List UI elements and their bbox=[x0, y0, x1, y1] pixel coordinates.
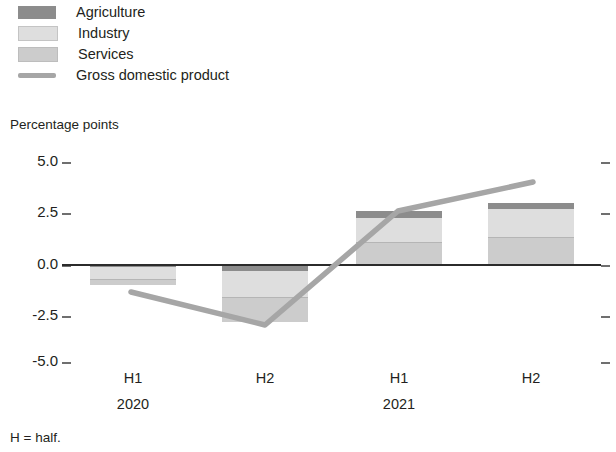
bar-h1-2020 bbox=[90, 264, 176, 285]
y-tick-label-neg-5: -5.0 bbox=[2, 352, 58, 369]
y-tick-mark-neg-2-5 bbox=[62, 316, 71, 318]
gdp-line-path bbox=[131, 182, 533, 325]
bar-h1-2021 bbox=[356, 211, 442, 264]
bar-segment-services bbox=[488, 238, 574, 264]
y-tick-mark-2-5 bbox=[62, 213, 71, 215]
y-tick-label-5: 5.0 bbox=[2, 152, 58, 169]
bar-h2-2021 bbox=[488, 203, 574, 264]
bar-segment-industry bbox=[90, 267, 176, 280]
y-tick-mark-neg-5 bbox=[62, 362, 71, 364]
x-group-label-2021: 2021 bbox=[356, 396, 442, 412]
y-tick-mark-right-neg-5 bbox=[601, 362, 610, 364]
y-tick-mark-right-neg-2-5 bbox=[601, 316, 610, 318]
x-tick-label-h1-2020: H1 bbox=[90, 370, 176, 386]
x-group-label-2020: 2020 bbox=[90, 396, 176, 412]
bar-segment-services bbox=[222, 298, 308, 322]
bar-segment-services bbox=[90, 280, 176, 285]
chart-container: Agriculture Industry Services Gross dome… bbox=[0, 0, 616, 452]
bar-segment-industry bbox=[222, 271, 308, 298]
y-tick-mark-right-2-5 bbox=[601, 213, 610, 215]
x-tick-label-h2-2020: H2 bbox=[222, 370, 308, 386]
zero-axis-line bbox=[62, 264, 601, 266]
bar-h2-2020 bbox=[222, 264, 308, 322]
bar-segment-agriculture bbox=[356, 211, 442, 218]
y-tick-label-2-5: 2.5 bbox=[2, 203, 58, 220]
x-tick-label-h2-2021: H2 bbox=[488, 370, 574, 386]
bar-segment-industry bbox=[488, 209, 574, 238]
bar-segment-industry bbox=[356, 218, 442, 243]
bar-segment-services bbox=[356, 243, 442, 264]
y-tick-mark-right-5 bbox=[601, 162, 610, 164]
y-tick-mark-5 bbox=[62, 162, 71, 164]
y-tick-label-0: 0.0 bbox=[2, 255, 58, 272]
y-tick-mark-right-0 bbox=[601, 265, 610, 267]
plot-area: 5.0 2.5 0.0 -2.5 -5.0 bbox=[0, 0, 616, 452]
chart-footnote: H = half. bbox=[10, 430, 61, 445]
y-tick-label-neg-2-5: -2.5 bbox=[2, 306, 58, 323]
x-tick-label-h1-2021: H1 bbox=[356, 370, 442, 386]
